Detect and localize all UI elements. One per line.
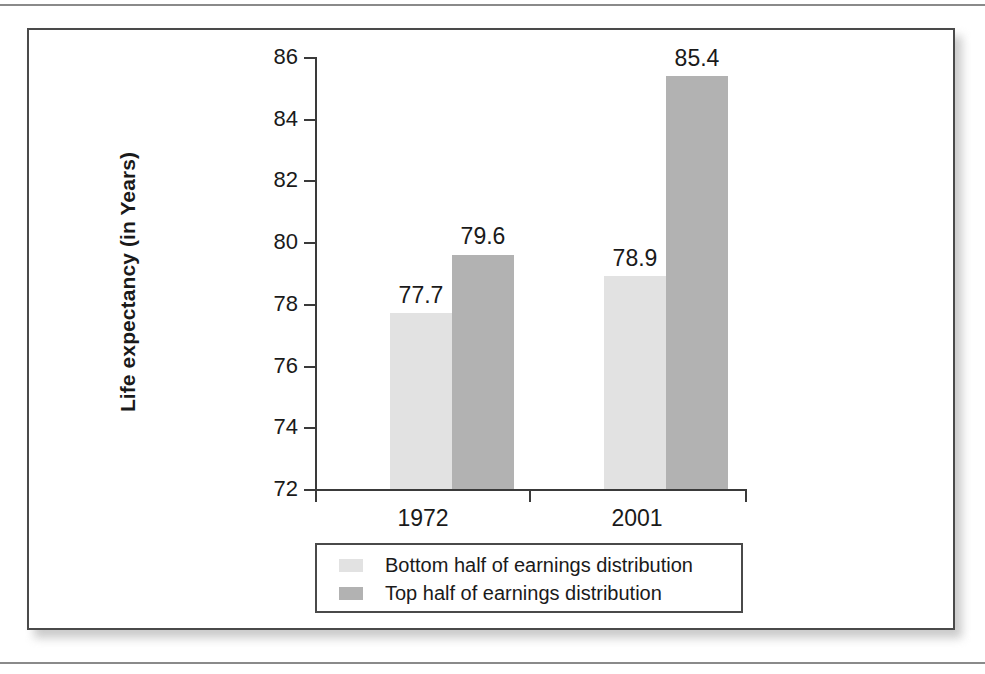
x-axis-tick-mark: [315, 491, 317, 502]
legend-label: Top half of earnings distribution: [385, 582, 662, 605]
y-axis-title: Life expectancy (in Years): [116, 102, 140, 462]
legend-item-top-half: Top half of earnings distribution: [339, 582, 662, 605]
x-axis-category-label: 1972: [323, 505, 523, 532]
x-axis-category-label: 2001: [537, 505, 737, 532]
figure-frame: Life expectancy (in Years) 8684828078767…: [27, 28, 955, 630]
x-axis-tick-mark: [529, 491, 531, 502]
y-axis-tick-mark: [304, 489, 315, 491]
y-axis-tick-mark: [304, 119, 315, 121]
bar: [452, 255, 514, 490]
x-axis-tick-mark: [745, 491, 747, 502]
y-axis-tick-mark: [304, 242, 315, 244]
legend-swatch-icon: [339, 559, 363, 572]
chart-legend: Bottom half of earnings distribution Top…: [315, 543, 743, 613]
y-axis-tick-label: 76: [242, 353, 298, 379]
bar: [666, 76, 728, 489]
bar-value-label: 85.4: [637, 45, 757, 72]
y-axis-tick-mark: [304, 57, 315, 59]
bar-value-label: 79.6: [423, 223, 543, 250]
y-axis-tick-mark: [304, 304, 315, 306]
page-rule-bottom: [0, 662, 985, 664]
bar: [604, 276, 666, 489]
legend-swatch-icon: [339, 587, 363, 600]
legend-label: Bottom half of earnings distribution: [385, 554, 693, 577]
y-axis-tick-label: 78: [242, 291, 298, 317]
y-axis-tick-mark: [304, 427, 315, 429]
page-rule-top: [0, 4, 985, 6]
x-axis-line: [315, 489, 747, 491]
y-axis-tick-mark: [304, 180, 315, 182]
y-axis-tick-label: 72: [242, 476, 298, 502]
y-axis-tick-label: 84: [242, 106, 298, 132]
y-axis-tick-mark: [304, 366, 315, 368]
bar-series-layer: 77.779.678.985.4: [317, 57, 747, 489]
y-axis-tick-label: 74: [242, 414, 298, 440]
legend-item-bottom-half: Bottom half of earnings distribution: [339, 554, 693, 577]
plot-area: Life expectancy (in Years) 8684828078767…: [29, 30, 957, 632]
bar: [390, 313, 452, 489]
y-axis-tick-label: 80: [242, 229, 298, 255]
y-axis-tick-label: 82: [242, 167, 298, 193]
y-axis-tick-label: 86: [242, 44, 298, 70]
